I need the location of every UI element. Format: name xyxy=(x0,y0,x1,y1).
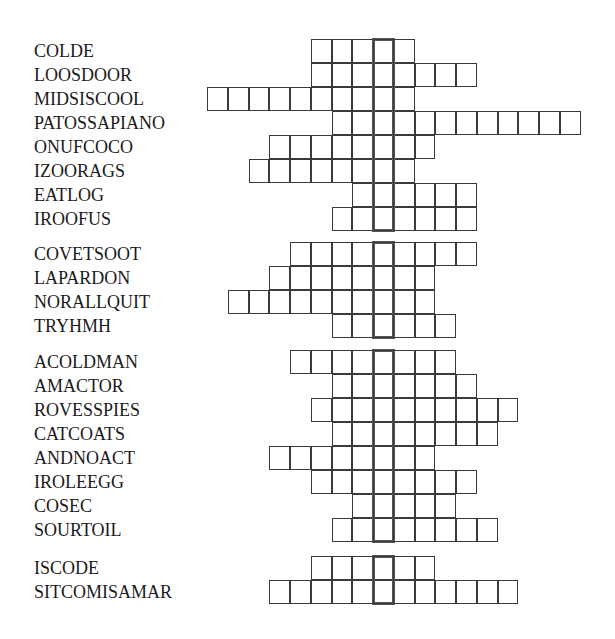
answer-cell[interactable] xyxy=(332,266,353,290)
answer-cell[interactable] xyxy=(415,242,436,266)
answer-cell[interactable] xyxy=(332,135,353,159)
answer-cell[interactable] xyxy=(352,63,373,87)
answer-cell[interactable] xyxy=(249,159,270,183)
answer-cell[interactable] xyxy=(311,580,332,604)
answer-cell[interactable] xyxy=(477,422,498,446)
answer-cell[interactable] xyxy=(311,446,332,470)
answer-cell[interactable] xyxy=(290,580,311,604)
highlighted-answer-cell[interactable] xyxy=(373,398,394,422)
answer-cell[interactable] xyxy=(415,446,436,470)
highlighted-answer-cell[interactable] xyxy=(373,242,394,266)
answer-cell[interactable] xyxy=(394,290,415,314)
answer-cell[interactable] xyxy=(290,159,311,183)
highlighted-answer-cell[interactable] xyxy=(373,556,394,580)
answer-cell[interactable] xyxy=(415,580,436,604)
answer-cell[interactable] xyxy=(394,350,415,374)
answer-cell[interactable] xyxy=(435,111,456,135)
answer-cell[interactable] xyxy=(456,422,477,446)
answer-cell[interactable] xyxy=(228,87,249,111)
answer-cell[interactable] xyxy=(269,159,290,183)
answer-cell[interactable] xyxy=(332,446,353,470)
highlighted-answer-cell[interactable] xyxy=(373,374,394,398)
answer-cell[interactable] xyxy=(332,242,353,266)
answer-cell[interactable] xyxy=(394,470,415,494)
answer-cell[interactable] xyxy=(290,290,311,314)
answer-cell[interactable] xyxy=(352,183,373,207)
answer-cell[interactable] xyxy=(249,87,270,111)
answer-cell[interactable] xyxy=(352,518,373,542)
highlighted-answer-cell[interactable] xyxy=(373,314,394,338)
answer-cell[interactable] xyxy=(435,580,456,604)
answer-cell[interactable] xyxy=(332,580,353,604)
answer-cell[interactable] xyxy=(394,446,415,470)
answer-cell[interactable] xyxy=(456,374,477,398)
answer-cell[interactable] xyxy=(415,518,436,542)
answer-cell[interactable] xyxy=(415,350,436,374)
answer-cell[interactable] xyxy=(352,159,373,183)
answer-cell[interactable] xyxy=(456,242,477,266)
answer-cell[interactable] xyxy=(394,242,415,266)
answer-cell[interactable] xyxy=(435,63,456,87)
highlighted-answer-cell[interactable] xyxy=(373,494,394,518)
answer-cell[interactable] xyxy=(456,398,477,422)
answer-cell[interactable] xyxy=(435,374,456,398)
highlighted-answer-cell[interactable] xyxy=(373,63,394,87)
answer-cell[interactable] xyxy=(415,398,436,422)
answer-cell[interactable] xyxy=(332,159,353,183)
highlighted-answer-cell[interactable] xyxy=(373,266,394,290)
answer-cell[interactable] xyxy=(415,470,436,494)
answer-cell[interactable] xyxy=(435,398,456,422)
answer-cell[interactable] xyxy=(311,350,332,374)
answer-cell[interactable] xyxy=(456,183,477,207)
highlighted-answer-cell[interactable] xyxy=(373,207,394,231)
answer-cell[interactable] xyxy=(352,87,373,111)
answer-cell[interactable] xyxy=(415,207,436,231)
answer-cell[interactable] xyxy=(394,159,415,183)
answer-cell[interactable] xyxy=(311,470,332,494)
answer-cell[interactable] xyxy=(290,242,311,266)
answer-cell[interactable] xyxy=(352,207,373,231)
answer-cell[interactable] xyxy=(435,518,456,542)
answer-cell[interactable] xyxy=(311,398,332,422)
answer-cell[interactable] xyxy=(415,290,436,314)
highlighted-answer-cell[interactable] xyxy=(373,470,394,494)
answer-cell[interactable] xyxy=(332,111,353,135)
highlighted-answer-cell[interactable] xyxy=(373,580,394,604)
answer-cell[interactable] xyxy=(394,87,415,111)
answer-cell[interactable] xyxy=(415,314,436,338)
answer-cell[interactable] xyxy=(394,494,415,518)
answer-cell[interactable] xyxy=(332,314,353,338)
answer-cell[interactable] xyxy=(456,111,477,135)
answer-cell[interactable] xyxy=(311,159,332,183)
answer-cell[interactable] xyxy=(249,290,270,314)
highlighted-answer-cell[interactable] xyxy=(373,87,394,111)
highlighted-answer-cell[interactable] xyxy=(373,446,394,470)
answer-cell[interactable] xyxy=(332,207,353,231)
answer-cell[interactable] xyxy=(435,350,456,374)
answer-cell[interactable] xyxy=(394,135,415,159)
answer-cell[interactable] xyxy=(498,398,519,422)
answer-cell[interactable] xyxy=(394,266,415,290)
answer-cell[interactable] xyxy=(415,111,436,135)
answer-cell[interactable] xyxy=(352,494,373,518)
answer-cell[interactable] xyxy=(415,494,436,518)
answer-cell[interactable] xyxy=(394,183,415,207)
answer-cell[interactable] xyxy=(332,422,353,446)
highlighted-answer-cell[interactable] xyxy=(373,183,394,207)
answer-cell[interactable] xyxy=(332,39,353,63)
answer-cell[interactable] xyxy=(394,314,415,338)
answer-cell[interactable] xyxy=(539,111,560,135)
answer-cell[interactable] xyxy=(394,398,415,422)
answer-cell[interactable] xyxy=(415,183,436,207)
answer-cell[interactable] xyxy=(332,290,353,314)
answer-cell[interactable] xyxy=(456,580,477,604)
answer-cell[interactable] xyxy=(311,266,332,290)
answer-cell[interactable] xyxy=(415,63,436,87)
answer-cell[interactable] xyxy=(352,314,373,338)
answer-cell[interactable] xyxy=(352,422,373,446)
answer-cell[interactable] xyxy=(290,135,311,159)
answer-cell[interactable] xyxy=(435,470,456,494)
highlighted-answer-cell[interactable] xyxy=(373,111,394,135)
answer-cell[interactable] xyxy=(290,350,311,374)
answer-cell[interactable] xyxy=(332,87,353,111)
